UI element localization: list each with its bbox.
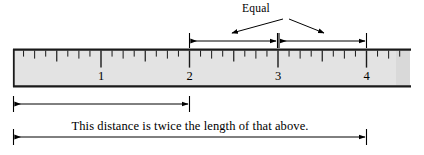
equal-label: Equal <box>0 2 424 14</box>
ruler-unit-label-2: 2 <box>186 69 192 84</box>
ruler-unit-label-1: 1 <box>98 69 104 84</box>
caption-text: This distance is twice the length of tha… <box>71 119 308 133</box>
equal-label-text: Equal <box>242 2 270 14</box>
equal-leader-lines <box>232 19 324 33</box>
measure-0-to-2 <box>14 96 190 112</box>
ruler-unit-label-3: 3 <box>275 69 281 84</box>
measure-2-to-3 <box>190 33 278 48</box>
ruler-unit-label-4: 4 <box>363 69 369 84</box>
ruler-diagram: Equal This distance is twice the length … <box>0 0 424 155</box>
caption: This distance is twice the length of tha… <box>0 119 424 134</box>
measure-3-to-4 <box>279 33 367 48</box>
